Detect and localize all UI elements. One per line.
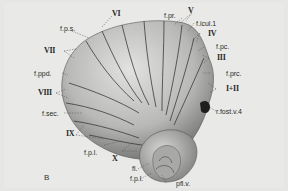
- label-lobule-VIII: VIII: [38, 89, 52, 97]
- label-f-p-l-bottom: f.p.l.: [130, 175, 143, 182]
- label-pfl-v: pfl.v.: [176, 180, 190, 187]
- label-r-fost-v4: r.fost.v.4: [216, 108, 242, 115]
- label-lobule-IX: IX: [66, 130, 74, 138]
- label-f-pc: f.pc.: [216, 43, 229, 50]
- label-lobule-X: X: [112, 155, 117, 163]
- label-f-pr: f.pr.: [164, 12, 176, 19]
- label-fl: fl.: [132, 165, 137, 172]
- panel-label: B: [44, 174, 49, 182]
- cerebellum-figure: VI f.p.s. VII f.ppd. VIII f.sec. IX f.p.…: [4, 3, 284, 188]
- label-f-p-l-left: f.p.l.: [84, 149, 97, 156]
- label-lobule-VI: VI: [112, 10, 120, 18]
- label-f-prc: f.prc.: [226, 70, 242, 77]
- label-f-ppd: f.ppd.: [34, 70, 52, 77]
- label-f-p-s: f.p.s.: [60, 25, 75, 32]
- label-lobule-V: V: [188, 7, 193, 15]
- label-lobule-IV: IV: [208, 30, 216, 38]
- label-f-icul-1: f.icul.1: [196, 20, 216, 27]
- label-lobule-III: III: [217, 54, 225, 62]
- label-lobule-I-II: I+II: [226, 85, 239, 93]
- label-lobule-VII: VII: [44, 47, 55, 55]
- label-f-sec: f.sec.: [42, 110, 59, 117]
